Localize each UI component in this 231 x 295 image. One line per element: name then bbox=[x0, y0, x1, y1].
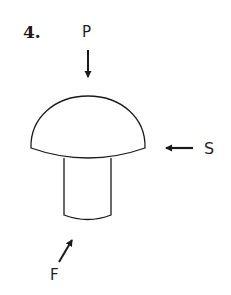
force-diagram: 4. P S F bbox=[0, 0, 231, 295]
stem-shape bbox=[64, 158, 111, 220]
diagram-canvas bbox=[0, 0, 231, 295]
arrow-up-right-icon bbox=[59, 240, 72, 262]
dome-cap-shape bbox=[31, 96, 145, 158]
